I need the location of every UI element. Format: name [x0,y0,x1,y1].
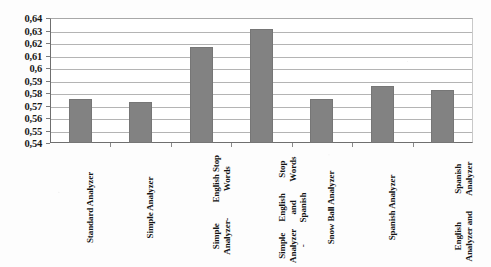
y-tick-mark [46,56,50,57]
x-category-label-line: Simple Analyzer- [211,208,232,266]
x-category-label: English Analyzer andSpanish Analyzer [453,150,471,265]
y-tick-mark [46,43,50,44]
bar [310,99,333,143]
x-tick-mark [413,143,414,147]
x-category-label-line: Simple Analyzer [145,150,156,265]
y-tick-label: 0,62 [24,38,42,49]
x-category-label: Standard Analyzer [85,150,103,265]
x-category-label-line: Standard Analyzer [85,150,96,265]
x-category-label-line: Snow Ball Analyzer [326,150,337,265]
x-category-label-line: Simple Analyzer - [277,227,309,265]
y-tick-label: 0,63 [24,25,42,36]
x-tick-mark [110,143,111,147]
y-tick-label: 0,56 [24,113,42,124]
x-tick-mark [352,143,353,147]
chart-page: 0,640,630,620,610,60,590,580,570,560,550… [0,0,491,267]
x-tick-mark [231,143,232,147]
y-tick-mark [46,131,50,132]
y-tick-mark [46,106,50,107]
bar [190,47,213,143]
x-axis-category-labels: Standard AnalyzerSimple AnalyzerSimple A… [50,150,473,267]
bar [129,102,152,143]
bar [431,90,454,143]
y-tick-mark [46,31,50,32]
y-axis: 0,640,630,620,610,60,590,580,570,560,550… [0,18,46,143]
x-category-label: Spanish Analyzer [387,150,405,265]
y-tick-label: 0,61 [24,50,42,61]
y-tick-mark [46,68,50,69]
x-tick-mark [171,143,172,147]
y-tick-label: 0,59 [24,75,42,86]
bar [371,86,394,143]
x-category-label: Simple Analyzer-English Stop Words [211,150,229,265]
x-category-label-line: Spanish Analyzer [387,150,398,265]
y-tick-label: 0,54 [24,138,42,149]
x-tick-mark [292,143,293,147]
y-tick-mark [46,143,50,144]
x-category-label-line: English and Spanish [277,188,309,226]
x-category-label: Snow Ball Analyzer [326,150,344,265]
y-tick-label: 0,64 [24,13,42,24]
y-tick-label: 0,57 [24,100,42,111]
y-tick-mark [46,118,50,119]
x-category-label: Simple Analyzer -English and SpanishStop… [277,150,295,265]
y-tick-label: 0,6 [29,63,42,74]
y-tick-label: 0,55 [24,125,42,136]
bar [69,99,92,143]
y-tick-label: 0,58 [24,88,42,99]
y-tick-mark [46,18,50,19]
bars-layer [50,18,473,143]
x-category-label-line: Spanish Analyzer [453,150,474,208]
x-category-label: Simple Analyzer [145,150,163,265]
y-tick-mark [46,81,50,82]
x-category-label-line: English Analyzer and [453,208,474,266]
x-category-label-line: Stop Words [277,150,298,188]
y-tick-mark [46,93,50,94]
x-category-label-line: English Stop Words [211,150,232,208]
bar [250,29,273,143]
